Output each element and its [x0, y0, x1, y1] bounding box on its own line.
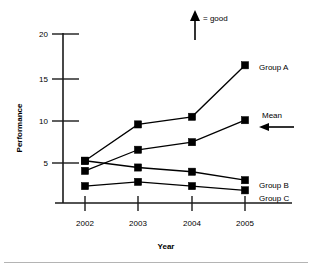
y-tick-label-15: 15 [39, 75, 48, 84]
y-tick-labels: 20 15 10 5 [39, 30, 48, 168]
data-point-marker [81, 167, 88, 174]
series-label-group-a: Group A [259, 63, 289, 72]
data-point-marker [188, 113, 195, 120]
footer-divider [4, 262, 308, 263]
data-point-marker [241, 187, 248, 194]
x-tick-label-2003: 2003 [129, 219, 147, 228]
mean-callout: Mean [259, 111, 294, 131]
data-point-marker [188, 139, 195, 146]
y-tick-label-10: 10 [39, 117, 48, 126]
mean-arrow-head-left-icon [259, 123, 269, 131]
x-tick-label-2002: 2002 [76, 219, 94, 228]
data-point-marker [134, 146, 141, 153]
good-direction-annotation: = good [190, 10, 228, 40]
y-tick-marks [52, 34, 79, 163]
good-annotation-label: = good [203, 14, 228, 23]
mean-callout-label: Mean [262, 111, 282, 120]
series-label-group-b: Group B [259, 181, 289, 190]
data-point-marker [241, 117, 248, 124]
data-point-marker [134, 178, 141, 185]
y-axis-title: Performance [15, 103, 24, 152]
data-point-marker [188, 183, 195, 190]
series-line-group-b [85, 161, 245, 180]
series-label-group-c: Group C [259, 194, 289, 203]
good-arrow-head-up-icon [190, 10, 200, 21]
data-point-marker [81, 183, 88, 190]
series-end-labels: Group A Group B Group C [259, 63, 289, 203]
x-axis-title: Year [158, 242, 175, 251]
data-point-marker [241, 62, 248, 69]
x-tick-label-2005: 2005 [236, 219, 254, 228]
x-tick-label-2004: 2004 [183, 219, 201, 228]
series-markers [81, 62, 248, 194]
series-line-group-c [85, 182, 245, 190]
data-point-marker [81, 157, 88, 164]
data-point-marker [241, 177, 248, 184]
axis-group [55, 33, 292, 203]
data-point-marker [134, 121, 141, 128]
chart-figure: 20 15 10 5 Performance 2002 2003 2004 20… [0, 0, 312, 267]
data-point-marker [188, 168, 195, 175]
y-tick-label-5: 5 [44, 159, 49, 168]
y-tick-label-20: 20 [39, 30, 48, 39]
x-tick-labels: 2002 2003 2004 2005 [76, 219, 254, 228]
performance-line-chart: 20 15 10 5 Performance 2002 2003 2004 20… [0, 0, 312, 267]
data-point-marker [134, 164, 141, 171]
series-lines [85, 65, 245, 190]
